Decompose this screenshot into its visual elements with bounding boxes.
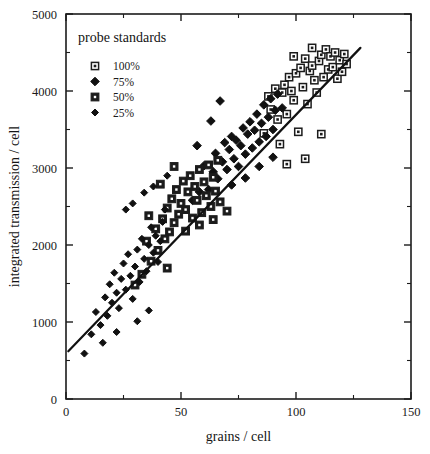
marker-diamond (241, 150, 250, 159)
data-point (173, 186, 181, 194)
data-point (122, 206, 129, 213)
data-point (223, 207, 231, 215)
marker-diamond (269, 125, 278, 134)
marker-diamond-small (81, 350, 88, 357)
data-point (309, 62, 316, 69)
marker-center-dot (341, 70, 344, 73)
data-point (234, 162, 243, 171)
marker-diamond-small (164, 172, 171, 179)
data-point (202, 192, 210, 200)
marker-diamond-small (99, 339, 106, 346)
data-point (209, 173, 217, 181)
data-point (230, 154, 239, 163)
marker-diamond (91, 77, 100, 86)
marker-diamond-small (134, 246, 141, 253)
marker-center-dot (212, 218, 214, 220)
data-point (92, 308, 99, 315)
data-point (302, 155, 309, 162)
data-point (132, 263, 139, 270)
legend-label: 75% (113, 76, 135, 88)
data-point (170, 219, 178, 227)
marker-diamond (230, 154, 239, 163)
marker-center-dot (194, 185, 196, 187)
data-point (193, 196, 201, 204)
data-point (129, 200, 136, 207)
marker-center-dot (338, 59, 341, 62)
data-point (281, 81, 288, 88)
marker-diamond-small (129, 200, 136, 207)
marker-center-dot (164, 238, 166, 240)
data-point (113, 329, 120, 336)
marker-diamond-small (150, 183, 157, 190)
marker-diamond-small (113, 289, 120, 296)
marker-diamond-small (102, 294, 109, 301)
data-point (205, 161, 213, 169)
data-point (322, 46, 329, 53)
x-axis-title: grains / cell (206, 429, 271, 444)
plot-canvas: 050100150010002000300040005000 probe sta… (0, 0, 430, 454)
data-point (118, 275, 125, 282)
marker-center-dot (173, 165, 175, 167)
data-point (290, 97, 297, 104)
marker-center-dot (226, 210, 228, 212)
marker-center-dot (343, 53, 346, 56)
marker-diamond-small (118, 275, 125, 282)
x-tick-label: 150 (402, 405, 421, 419)
data-point (200, 178, 208, 186)
marker-center-dot (157, 249, 159, 251)
marker-diamond-small (92, 109, 99, 116)
data-point (318, 131, 325, 138)
data-point (196, 166, 204, 174)
marker-center-dot (322, 76, 325, 79)
data-point (150, 183, 157, 190)
marker-center-dot (189, 175, 191, 177)
marker-center-dot (309, 70, 312, 73)
data-point (274, 116, 281, 123)
data-point (102, 294, 109, 301)
marker-diamond-small (141, 189, 148, 196)
data-point (182, 206, 190, 214)
data-point (311, 77, 318, 84)
legend: probe standards100%75%50%25% (78, 30, 166, 119)
data-point (145, 307, 152, 314)
marker-diamond (269, 153, 278, 162)
data-point (81, 350, 88, 357)
data-point (113, 289, 120, 296)
marker-diamond (264, 113, 273, 122)
marker-center-dot (148, 215, 150, 217)
marker-center-dot (196, 199, 198, 201)
marker-diamond-small (97, 322, 104, 329)
marker-center-dot (311, 47, 314, 50)
data-point (186, 172, 194, 180)
data-point (264, 113, 273, 122)
marker-center-dot (292, 55, 295, 58)
data-point (129, 295, 136, 302)
data-point (257, 119, 266, 128)
marker-center-dot (180, 202, 182, 204)
marker-center-dot (187, 191, 189, 193)
marker-center-dot (279, 143, 282, 146)
marker-center-dot (145, 240, 147, 242)
marker-diamond-small (129, 295, 136, 302)
legend-title: probe standards (78, 30, 166, 45)
legend-label: 25% (113, 107, 135, 119)
data-point (97, 322, 104, 329)
data-point (320, 74, 327, 81)
marker-center-dot (334, 51, 337, 54)
data-point (214, 156, 222, 164)
marker-center-dot (155, 228, 157, 230)
data-point (106, 281, 113, 288)
data-point (220, 138, 229, 147)
marker-center-dot (205, 195, 207, 197)
data-point (290, 53, 297, 60)
data-point (209, 216, 217, 224)
data-point (145, 212, 153, 220)
marker-center-dot (191, 217, 193, 219)
marker-diamond-small (125, 251, 132, 258)
marker-diamond-small (115, 305, 122, 312)
data-point (253, 110, 262, 119)
marker-center-dot (203, 181, 205, 183)
data-point (225, 145, 234, 154)
marker-center-dot (214, 190, 216, 192)
y-tick-label: 0 (51, 393, 57, 407)
